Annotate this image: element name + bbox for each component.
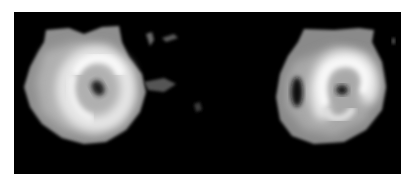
left-scan-image (24, 26, 202, 144)
scan-images (14, 12, 401, 174)
image-panel (14, 12, 401, 174)
right-scan-image (276, 28, 395, 144)
